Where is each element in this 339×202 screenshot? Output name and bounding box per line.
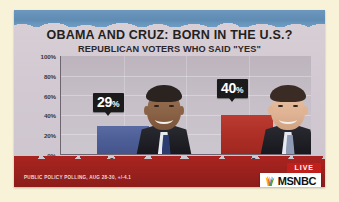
eye-shape [169, 105, 174, 107]
page-subtitle: REPUBLICAN VOTERS WHO SAID "YES" [14, 43, 325, 55]
y-tick-label: 60% [44, 92, 56, 99]
live-badge: LIVE [287, 163, 321, 173]
hair-shape [270, 85, 306, 102]
y-tick-label: 100% [41, 53, 56, 60]
broadcast-graphic-card: OBAMA AND CRUZ: BORN IN THE U.S.? REPUBL… [14, 10, 325, 187]
plot-region: 29% 40% [60, 56, 311, 155]
data-label-cruz: 40% [217, 79, 248, 98]
eye-shape [154, 105, 159, 107]
ear-shape [179, 106, 184, 115]
eye-shape [293, 105, 298, 107]
smile-shape [279, 115, 297, 124]
headline-block: OBAMA AND CRUZ: BORN IN THE U.S.? REPUBL… [14, 28, 325, 55]
eye-shape [278, 105, 283, 107]
y-tick-label: 40% [44, 112, 56, 119]
portrait-cruz [257, 80, 311, 154]
chart-area: 100% 80% 60% 40% 20% 0% [36, 56, 311, 155]
msnbc-logo: MSNBC [260, 173, 321, 187]
y-axis: 100% 80% 60% 40% 20% 0% [36, 56, 58, 155]
ear-shape [303, 106, 308, 115]
peacock-icon [264, 175, 276, 187]
data-label-value: 29 [97, 94, 112, 110]
head-shape [271, 88, 305, 130]
hair-shape [146, 85, 182, 102]
portrait-obama [133, 76, 195, 154]
ear-shape [268, 106, 273, 115]
y-tick-label: 80% [44, 72, 56, 79]
y-tick-label: 20% [44, 132, 56, 139]
head-shape [147, 88, 181, 130]
source-note: PUBLIC POLICY POLLING, AUG 28-30, +/-4.1 [24, 175, 131, 180]
data-label-value: 40 [221, 80, 236, 96]
msnbc-wordmark: MSNBC [278, 176, 316, 187]
screenshot-root: OBAMA AND CRUZ: BORN IN THE U.S.? REPUBL… [0, 0, 339, 202]
smile-shape [155, 115, 173, 124]
data-label-percent: % [112, 99, 120, 109]
data-label-obama: 29% [93, 93, 124, 112]
ear-shape [144, 106, 149, 115]
data-label-percent: % [236, 85, 244, 95]
page-title: OBAMA AND CRUZ: BORN IN THE U.S.? [14, 28, 325, 42]
